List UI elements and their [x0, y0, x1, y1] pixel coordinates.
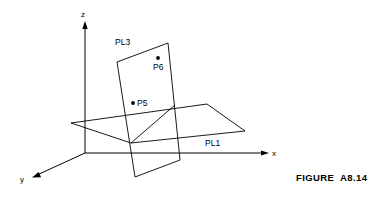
point-p5-label: P5: [137, 98, 148, 108]
y-axis-arrowhead: [32, 172, 41, 177]
x-axis-label: x: [272, 149, 276, 158]
plane-pl3-label: PL3: [115, 37, 130, 47]
z-axis-label: z: [81, 10, 85, 19]
x-axis-arrowhead: [261, 150, 269, 155]
plane-intersection-line: [131, 105, 175, 143]
plane-pl3: PL3: [115, 37, 180, 177]
figure-caption: FIGURE A8.14: [296, 172, 367, 183]
plane-pl3-outline: [117, 43, 180, 177]
y-axis-label: y: [20, 175, 24, 184]
plane-pl1-label: PL1: [205, 138, 220, 148]
z-axis-arrowhead: [82, 21, 87, 29]
figure-container: z x y PL1 PL3 P5 P6: [0, 0, 371, 200]
point-p6-dot: [156, 56, 160, 60]
point-p6: P6: [153, 56, 164, 72]
point-p6-label: P6: [153, 62, 164, 72]
point-p5-dot: [131, 101, 135, 105]
point-p5: P5: [131, 98, 148, 108]
geometry-diagram: z x y PL1 PL3 P5 P6: [0, 0, 371, 200]
axis-group: z x y: [20, 10, 276, 184]
y-axis-line: [37, 153, 85, 175]
plane-pl1: PL1: [71, 104, 245, 148]
